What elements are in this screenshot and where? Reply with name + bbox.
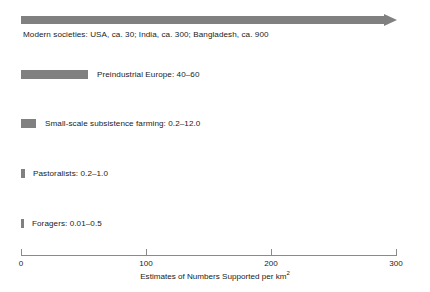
- x-axis-label-100: 100: [126, 259, 166, 268]
- x-axis-caption-text: Estimates of Numbers Supported per km: [140, 272, 286, 281]
- bar-row-preindustrial-europe: Preindustrial Europe: 40–60: [0, 70, 430, 100]
- x-axis-label-300: 300: [376, 259, 416, 268]
- bar-row-modern-societies: Modern societies: USA, ca. 30; India, ca…: [0, 14, 430, 44]
- bar-label-subsistence-farming: Small-scale subsistence farming: 0.2–12.…: [45, 119, 200, 129]
- bar-modern-societies: [21, 14, 397, 26]
- population-density-chart: Modern societies: USA, ca. 30; India, ca…: [0, 0, 430, 292]
- plot-area: Modern societies: USA, ca. 30; India, ca…: [0, 0, 430, 292]
- x-axis-tick-300: [396, 249, 397, 256]
- bar-label-foragers: Foragers: 0.01–0.5: [32, 219, 102, 229]
- x-axis-line: [21, 255, 397, 256]
- bar-pastoralists: [21, 169, 25, 178]
- x-axis-caption: Estimates of Numbers Supported per km2: [0, 272, 430, 282]
- bar-row-pastoralists: Pastoralists: 0.2–1.0: [0, 169, 430, 199]
- bar-foragers: [21, 219, 24, 228]
- bar-label-preindustrial-europe: Preindustrial Europe: 40–60: [97, 70, 200, 80]
- x-axis-label-200: 200: [251, 259, 291, 268]
- bar-shaft: [21, 16, 384, 24]
- x-axis-caption-exponent: 2: [286, 270, 289, 276]
- x-axis-tick-0: [21, 249, 22, 256]
- x-axis-label-0: 0: [1, 259, 41, 268]
- bar-label-pastoralists: Pastoralists: 0.2–1.0: [33, 169, 108, 179]
- bar-label-modern-societies: Modern societies: USA, ca. 30; India, ca…: [23, 30, 269, 40]
- bar-subsistence-farming: [21, 119, 36, 128]
- bar-row-subsistence-farming: Small-scale subsistence farming: 0.2–12.…: [0, 119, 430, 149]
- bar-preindustrial-europe: [21, 70, 88, 79]
- x-axis-tick-200: [271, 249, 272, 256]
- bar-row-foragers: Foragers: 0.01–0.5: [0, 219, 430, 249]
- arrowhead-icon: [384, 14, 397, 26]
- x-axis-tick-100: [146, 249, 147, 256]
